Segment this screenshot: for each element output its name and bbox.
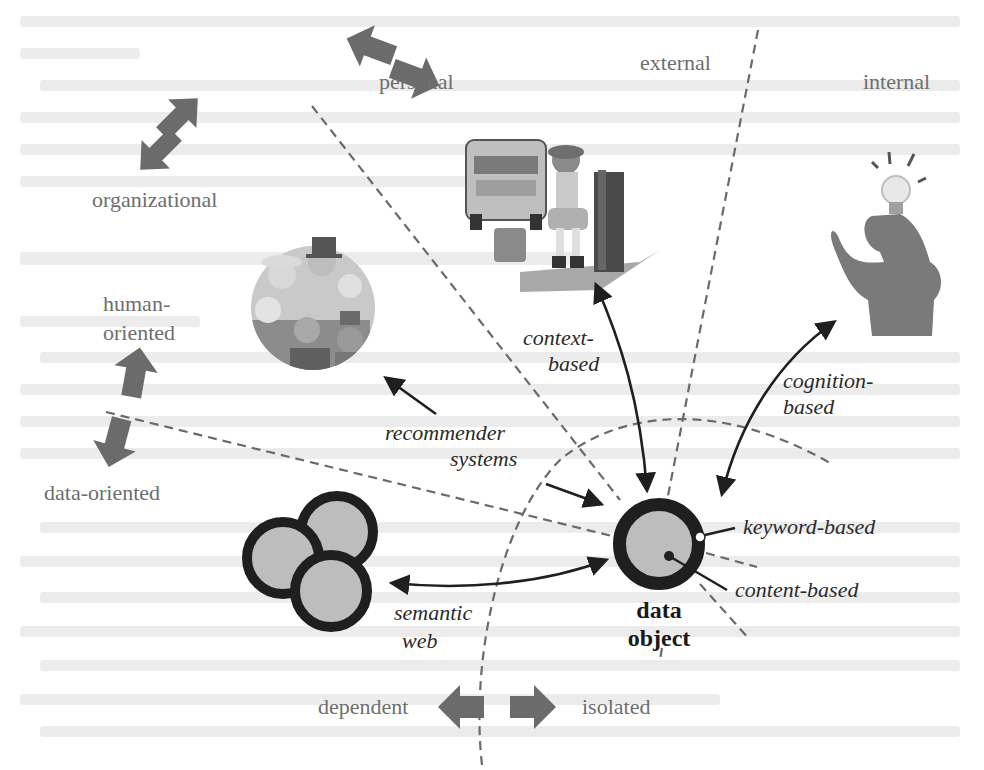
arrow-dependent-icon [438,685,484,729]
arrow-isolated-icon [510,685,556,729]
label-human: human- [103,291,170,316]
label-semantic-1: semantic [394,600,472,625]
label-internal: internal [863,69,930,94]
arrow-recommender-up [386,378,436,414]
label-isolated: isolated [582,694,650,719]
label-cognition-2: based [783,394,835,419]
label-recommender-1: recommender [385,420,506,445]
label-content-based: content-based [735,577,859,602]
keyword-port-icon [695,532,705,542]
label-data-oriented: data-oriented [44,480,160,505]
dashed-dividers [106,30,830,765]
label-dependent: dependent [318,694,408,719]
diagram-canvas: personal organizational external interna… [0,0,984,770]
approach-labels: context- based cognition- based recommen… [385,325,873,653]
label-data: data [636,597,681,623]
label-external: external [640,50,711,75]
label-oriented: oriented [103,320,175,345]
label-keyword-based: keyword-based [743,514,876,539]
label-recommender-2: systems [450,446,517,471]
linked-data-icon [247,496,373,627]
label-cognition-1: cognition- [783,368,873,393]
bus-stop-illustration [466,140,660,292]
label-context-1: context- [523,325,594,350]
thinker-illustration [831,152,941,336]
label-object: object [628,625,691,651]
label-semantic-2: web [402,628,437,653]
label-organizational: organizational [92,187,217,212]
arrow-recommender-down [546,484,601,504]
label-context-2: based [548,351,600,376]
label-personal: personal [379,69,454,94]
